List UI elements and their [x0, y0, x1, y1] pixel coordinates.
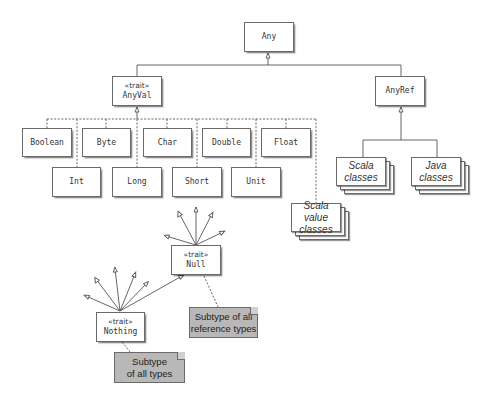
- edges-layer: [0, 0, 488, 403]
- node-nothing-label: Nothing: [104, 327, 138, 337]
- node-char[interactable]: Char: [143, 128, 192, 157]
- node-double[interactable]: Double: [202, 128, 251, 157]
- note-null-line1: Subtype of all: [195, 311, 253, 322]
- node-scala-value-classes[interactable]: Scala value classes: [291, 203, 353, 243]
- node-anyval-stereotype: «trait»: [125, 81, 150, 90]
- node-null-label: Null: [186, 260, 205, 270]
- note-nothing-line1: Subtype: [132, 356, 167, 367]
- node-null-stereotype: «trait»: [184, 250, 209, 259]
- node-boolean[interactable]: Boolean: [22, 128, 72, 157]
- node-java-classes[interactable]: Java classes: [411, 157, 473, 197]
- node-char-label: Char: [158, 138, 177, 148]
- node-scala-classes-line2: classes: [344, 172, 377, 184]
- node-scala-value-classes-line2: classes: [299, 224, 332, 236]
- node-long-label: Long: [127, 177, 146, 187]
- node-null[interactable]: «trait» Null: [171, 245, 221, 275]
- edge-null-fan: [163, 207, 225, 245]
- class-hierarchy-diagram: Any «trait» AnyVal AnyRef Boolean Byte C…: [0, 0, 488, 403]
- edge-classes-to-anyref: [363, 107, 437, 157]
- node-float-label: Float: [274, 138, 298, 148]
- node-double-label: Double: [212, 138, 241, 148]
- stack-front: Scala value classes: [291, 203, 341, 232]
- node-byte-label: Byte: [97, 138, 116, 148]
- node-long[interactable]: Long: [112, 167, 162, 197]
- node-java-classes-line1: Java: [425, 160, 446, 172]
- note-nothing-fold: [177, 352, 185, 360]
- stack-front: Scala classes: [336, 157, 386, 186]
- node-anyref[interactable]: AnyRef: [375, 76, 425, 106]
- note-null: Subtype of all reference types: [189, 307, 258, 338]
- node-int[interactable]: Int: [52, 167, 101, 197]
- node-boolean-label: Boolean: [30, 138, 64, 148]
- edge-nothing-fan: [83, 267, 184, 311]
- node-nothing[interactable]: «trait» Nothing: [96, 312, 145, 342]
- node-float[interactable]: Float: [261, 128, 311, 157]
- note-null-fold: [250, 307, 258, 315]
- node-short[interactable]: Short: [172, 167, 222, 197]
- node-scala-value-classes-line1: Scala value: [292, 200, 340, 224]
- node-anyref-label: AnyRef: [386, 86, 415, 96]
- node-anyval-label: AnyVal: [123, 91, 152, 101]
- node-nothing-stereotype: «trait»: [108, 317, 133, 326]
- edge-anyval-anyref-to-any: [137, 53, 401, 76]
- node-any-label: Any: [262, 32, 276, 42]
- node-scala-classes[interactable]: Scala classes: [336, 157, 398, 197]
- stack-front: Java classes: [411, 157, 461, 186]
- node-byte[interactable]: Byte: [82, 128, 131, 157]
- node-int-label: Int: [69, 177, 83, 187]
- node-java-classes-line2: classes: [419, 172, 452, 184]
- node-unit[interactable]: Unit: [231, 167, 281, 197]
- note-null-line2: reference types: [191, 323, 256, 334]
- node-any[interactable]: Any: [244, 22, 294, 52]
- node-scala-classes-line1: Scala: [348, 160, 373, 172]
- node-unit-label: Unit: [246, 177, 265, 187]
- note-nothing: Subtype of all types: [114, 352, 185, 383]
- node-short-label: Short: [185, 177, 209, 187]
- node-anyval[interactable]: «trait» AnyVal: [112, 76, 162, 106]
- note-nothing-line2: of all types: [127, 368, 172, 379]
